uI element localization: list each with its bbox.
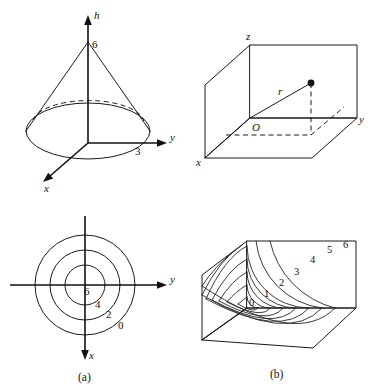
box-back-wall	[250, 45, 357, 118]
h-axis-arrowhead	[84, 15, 92, 25]
contour-label-0: 0	[118, 319, 124, 331]
surface-label-6: 6	[343, 239, 348, 250]
figure-root: h 6 y 3 x	[0, 0, 371, 391]
surface-arc-back-3	[247, 259, 296, 308]
panel-cone-3d: h 6 y 3 x	[0, 0, 186, 196]
box-floor	[205, 118, 357, 158]
radius-label: r	[278, 85, 283, 97]
origin-label: O	[252, 121, 260, 133]
surface-floor-fold	[202, 308, 247, 340]
surface-arc-floor-0	[238, 304, 258, 310]
point-marker	[308, 80, 315, 87]
x-axis-label: x	[43, 182, 49, 194]
z-axis-label: z	[245, 30, 251, 42]
surface-floor-plane	[202, 308, 356, 348]
panel-contour-surface: 0 1 2 3 4 5 6 (b)	[186, 196, 371, 391]
floor-projection-y	[311, 107, 344, 135]
surface-label-1: 1	[264, 288, 269, 299]
box-left-wall	[205, 45, 250, 158]
box-x-axis-label: x	[195, 156, 201, 168]
caption-a: (a)	[78, 371, 91, 384]
contour-label-2: 2	[106, 308, 112, 320]
surface-arc-back-6	[270, 241, 335, 308]
surface-label-4: 4	[310, 254, 316, 265]
circles-y-axis-label: y	[169, 273, 175, 285]
surface-label-2: 2	[279, 277, 284, 288]
caption-b: (b)	[270, 368, 284, 381]
circles-x-axis-label: x	[88, 349, 94, 361]
panel-box-3d: z y x O r	[186, 0, 371, 196]
cone-slant-right	[88, 42, 150, 131]
cone-slant-left	[26, 42, 88, 131]
box-y-axis-label: y	[358, 113, 364, 125]
contour-label-4: 4	[95, 298, 101, 310]
surface-arc-left-2	[219, 272, 247, 301]
circles-x-axis-arrowhead	[81, 350, 89, 360]
contour-label-6: 6	[84, 285, 90, 297]
surface-label-5: 5	[327, 244, 332, 255]
surface-label-0: 0	[249, 297, 254, 308]
circles-y-axis-arrowhead	[157, 281, 167, 289]
surface-arc-left-0	[238, 297, 247, 304]
x-axis-line	[50, 143, 88, 176]
cone-radius-value: 3	[135, 145, 141, 157]
surface-label-3: 3	[294, 266, 299, 277]
surface-arc-left-3	[212, 259, 247, 300]
y-axis-label: y	[169, 131, 175, 143]
h-axis-label: h	[94, 9, 100, 21]
y-axis-arrowhead	[157, 139, 167, 147]
panel-contour-circles: y x 6 4 2 0 (a)	[0, 196, 186, 391]
surface-arc-back-4	[247, 246, 309, 308]
